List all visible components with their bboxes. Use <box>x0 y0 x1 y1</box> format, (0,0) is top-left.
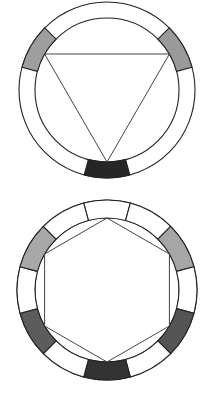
wheel-segment <box>17 267 37 314</box>
wheel-segment <box>158 226 194 271</box>
wheel-segment <box>84 200 131 220</box>
hexad-color-wheel <box>17 200 197 380</box>
wheel-segment <box>43 203 88 239</box>
triad-color-wheel <box>19 2 195 178</box>
wheel-segment <box>126 341 171 377</box>
inner-ring <box>35 218 179 362</box>
color-harmony-diagrams <box>0 0 210 396</box>
wheel-segment <box>20 309 56 354</box>
wheel-segment <box>84 360 131 380</box>
triangle-shape <box>45 54 170 162</box>
inner-ring <box>35 18 179 162</box>
hexagon-shape <box>45 218 170 362</box>
wheel-segment <box>177 267 197 314</box>
